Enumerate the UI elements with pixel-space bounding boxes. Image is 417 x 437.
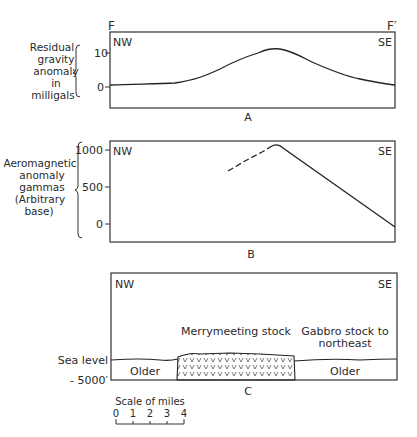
- profile-end-label: F′: [387, 19, 397, 33]
- sea-level-label: Sea level: [58, 354, 108, 367]
- panel-a-frame: [110, 32, 395, 108]
- svg-text:base): base): [24, 205, 53, 217]
- panel-b-tick-1000: 1000: [75, 144, 103, 157]
- magnetic-anomaly-dashed: [228, 146, 272, 171]
- panel-a-tick-10: 10: [94, 47, 108, 60]
- panel-a-se: SE: [378, 36, 392, 49]
- svg-text:2: 2: [147, 408, 153, 419]
- svg-text:Aeromagnetic: Aeromagnetic: [3, 157, 76, 169]
- panel-a-tick-0: 0: [97, 81, 104, 94]
- panel-b-tick-0: 0: [96, 218, 103, 231]
- panel-a-nw: NW: [113, 36, 132, 49]
- svg-text:anomaly: anomaly: [19, 169, 64, 181]
- svg-text:1: 1: [130, 408, 136, 419]
- panel-a-label: A: [244, 111, 252, 124]
- svg-text:anomaly: anomaly: [33, 65, 78, 77]
- svg-text:gravity: gravity: [38, 53, 75, 65]
- svg-text:3: 3: [164, 408, 170, 419]
- svg-text:0: 0: [113, 408, 119, 419]
- gabbro-label-line2: northeast: [318, 337, 372, 350]
- panel-c-label: C: [244, 385, 252, 398]
- stock-label: Merrymeeting stock: [181, 325, 292, 338]
- magnetic-anomaly-curve: [272, 145, 395, 227]
- panel-b-ylabel: Aeromagnetic anomaly gammas (Arbitrary b…: [3, 157, 76, 217]
- merrymeeting-stock-body: [177, 353, 295, 380]
- surface-right: [294, 359, 397, 361]
- panel-b-frame: [110, 141, 395, 242]
- depth-label: - 5000′: [70, 374, 108, 387]
- older-right-label: Older: [330, 365, 360, 378]
- older-left-label: Older: [130, 365, 160, 378]
- panel-b-nw: NW: [113, 145, 132, 158]
- svg-text:in: in: [51, 77, 61, 89]
- svg-text:(Arbitrary: (Arbitrary: [15, 193, 66, 205]
- profile-start-label: F: [108, 19, 115, 33]
- surface-left: [111, 359, 178, 360]
- panel-b-se: SE: [378, 145, 392, 158]
- panel-c-se: SE: [378, 278, 392, 291]
- gravity-anomaly-curve: [110, 49, 395, 85]
- panel-b-label: B: [247, 248, 255, 261]
- scale-ticks: 0 1 2 3 4: [113, 408, 187, 419]
- geologic-profile-figure: F F′ NW SE 10 0 Residual gravity anomaly…: [0, 0, 417, 437]
- panel-a-ylabel: Residual gravity anomaly in milligals: [30, 41, 79, 101]
- panel-b-tick-500: 500: [82, 181, 103, 194]
- scale-title: Scale of miles: [115, 396, 185, 407]
- svg-text:gammas: gammas: [19, 181, 64, 193]
- svg-text:Residual: Residual: [30, 41, 74, 53]
- panel-c-nw: NW: [115, 278, 134, 291]
- scale-bar: [116, 419, 184, 424]
- svg-text:milligals: milligals: [31, 89, 74, 101]
- svg-text:4: 4: [181, 408, 187, 419]
